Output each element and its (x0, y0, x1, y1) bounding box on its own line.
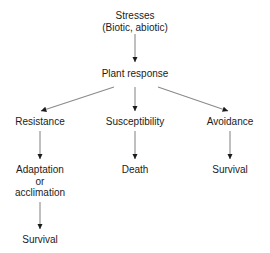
node-plant-response-label: Plant response (102, 68, 169, 80)
node-avoidance: Avoidance (207, 116, 254, 128)
node-resistance: Resistance (15, 116, 64, 128)
node-resistance-label: Resistance (15, 116, 64, 128)
node-death: Death (122, 164, 149, 176)
node-death-label: Death (122, 164, 149, 176)
edge-plant-response-to-avoidance (158, 87, 228, 111)
node-stresses-line-1: Stresses (102, 10, 168, 22)
node-survival-avoidance-label: Survival (212, 164, 248, 176)
node-adaptation-or-acclimation: Adaptation or acclimation (15, 164, 65, 199)
node-adaptation-line-3: acclimation (15, 187, 65, 199)
node-susceptibility-label: Susceptibility (106, 116, 164, 128)
node-susceptibility: Susceptibility (106, 116, 164, 128)
edge-plant-response-to-resistance (41, 87, 114, 111)
node-survival-resistance: Survival (22, 234, 58, 246)
node-survival-avoidance: Survival (212, 164, 248, 176)
node-adaptation-line-2: or (15, 176, 65, 188)
node-stresses: Stresses (Biotic, abiotic) (102, 10, 168, 33)
node-survival-resistance-label: Survival (22, 234, 58, 246)
flowchart-diagram: Stresses (Biotic, abiotic) Plant respons… (0, 0, 270, 253)
node-plant-response: Plant response (102, 68, 169, 80)
node-stresses-line-2: (Biotic, abiotic) (102, 22, 168, 34)
node-adaptation-line-1: Adaptation (15, 164, 65, 176)
node-avoidance-label: Avoidance (207, 116, 254, 128)
